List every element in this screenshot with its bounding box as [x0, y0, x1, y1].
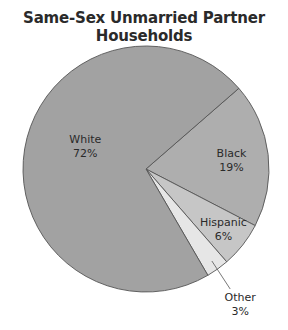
- pie-chart: Black19%Hispanic6%Other3%White72%: [0, 0, 288, 330]
- slice-label-black: Black: [217, 147, 247, 160]
- slice-label-other: Other: [225, 291, 257, 304]
- slice-value-other: 3%: [231, 305, 248, 318]
- slice-label-hispanic: Hispanic: [200, 216, 247, 229]
- slice-value-white: 72%: [73, 147, 97, 160]
- slice-value-black: 19%: [219, 161, 243, 174]
- slice-value-hispanic: 6%: [215, 230, 232, 243]
- slice-label-white: White: [69, 133, 101, 146]
